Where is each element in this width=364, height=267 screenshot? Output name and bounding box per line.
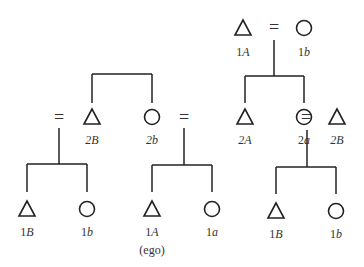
circle-female-icon xyxy=(205,202,220,217)
triangle-male-icon xyxy=(329,109,345,124)
triangle-male-icon xyxy=(237,109,253,124)
descent-lines-gen1 xyxy=(245,40,304,103)
gen3-1B-left: 1B xyxy=(19,201,35,239)
triangle-male-icon xyxy=(84,109,100,124)
circle-female-icon xyxy=(297,21,312,36)
label: 1A xyxy=(145,225,159,239)
marriage-sign: = xyxy=(179,107,189,127)
triangle-male-icon xyxy=(235,20,251,35)
gen2-2B-right: 2B xyxy=(329,109,345,147)
label: 1a xyxy=(206,225,218,239)
marriage-sign: = xyxy=(54,107,64,127)
circle-female-icon xyxy=(329,204,344,219)
label: 1B xyxy=(269,227,283,241)
label: 2B xyxy=(85,133,99,147)
sibling-bracket-left xyxy=(92,74,152,103)
label: 2b xyxy=(146,133,158,147)
label: 1A xyxy=(236,45,250,59)
label: 2a xyxy=(298,133,310,147)
marriage-sign: = xyxy=(301,107,311,127)
gen3-1A-ego: 1A (ego) xyxy=(139,201,164,257)
descent-lines-left xyxy=(27,128,87,192)
ego-label: (ego) xyxy=(139,243,164,257)
circle-female-icon xyxy=(80,202,95,217)
triangle-male-icon xyxy=(268,203,284,218)
gen2-2b: 2b xyxy=(145,110,160,148)
label: 1B xyxy=(20,225,34,239)
label: 1b xyxy=(81,225,93,239)
triangle-male-icon xyxy=(144,201,160,216)
gen2-2A: 2A xyxy=(237,109,253,147)
gen3-1b-right: 1b xyxy=(329,204,344,242)
label: 2B xyxy=(330,133,344,147)
circle-female-icon xyxy=(145,110,160,125)
label: 1b xyxy=(298,45,310,59)
gen3-1B-right: 1B xyxy=(268,203,284,241)
gen3-1a: 1a xyxy=(205,202,220,240)
label: 2A xyxy=(238,133,252,147)
gen1-wife: 1b xyxy=(297,21,312,60)
label: 1b xyxy=(330,227,342,241)
kinship-diagram: 1A = 1b = 2B 2b = 2A 2a = 2B xyxy=(0,0,364,267)
marriage-sign: = xyxy=(269,17,279,37)
gen3-1b-left: 1b xyxy=(80,202,95,240)
triangle-male-icon xyxy=(19,201,35,216)
gen1-husband: 1A xyxy=(235,20,251,59)
gen2-2B-left: 2B xyxy=(84,109,100,147)
descent-lines-middle xyxy=(152,128,212,192)
